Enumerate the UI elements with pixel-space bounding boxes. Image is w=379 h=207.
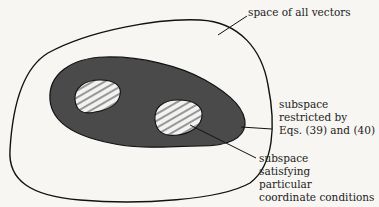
label-coordinate-2: satisfying [259,165,310,178]
label-restricted-3: Eqs. (39) and (40) [279,124,375,137]
label-coordinate-4: coordinate conditions [259,191,375,204]
label-coordinate-1: subspace [259,152,308,165]
leader-all-vectors [218,16,247,35]
label-coordinate-3: particular [259,178,312,191]
label-restricted-2: restricted by [279,111,347,124]
label-all-vectors: space of all vectors [248,6,351,19]
label-restricted-1: subspace [279,98,328,111]
leader-restricted [241,127,272,129]
